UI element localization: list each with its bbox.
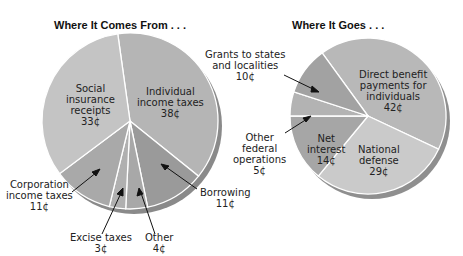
- label-social-insurance: Social insurance receipts 33¢: [66, 83, 115, 127]
- label-value: 33¢: [66, 116, 115, 127]
- label-direct-benefit: Direct benefit payments for individuals …: [359, 69, 427, 113]
- label-value: 4¢: [145, 243, 173, 254]
- label-line: Other: [145, 232, 173, 243]
- label-line: Social: [66, 83, 115, 94]
- label-line: federal: [233, 143, 286, 154]
- label-value: 5¢: [233, 165, 286, 176]
- label-line: Other: [233, 132, 286, 143]
- label-line: operations: [233, 154, 286, 165]
- label-value: 3¢: [70, 243, 132, 254]
- label-borrowing: Borrowing 11¢: [200, 187, 251, 209]
- label-line: defense: [358, 155, 400, 166]
- label-national-defense: National defense 29¢: [358, 144, 400, 177]
- label-line: Excise taxes: [70, 232, 132, 243]
- label-line: National: [358, 144, 400, 155]
- label-line: Direct benefit: [359, 69, 427, 80]
- label-line: receipts: [66, 105, 115, 116]
- label-line: Grants to states: [205, 49, 285, 60]
- label-line: Net: [307, 133, 345, 144]
- label-line: payments for: [359, 80, 427, 91]
- label-value: 42¢: [359, 102, 427, 113]
- label-line: Corporation: [6, 179, 73, 190]
- label-line: income taxes: [137, 97, 204, 108]
- label-corporation: Corporation income taxes 11¢: [6, 179, 73, 212]
- label-net-interest: Net interest 14¢: [307, 133, 345, 166]
- label-individual-income: Individual income taxes 38¢: [137, 86, 204, 119]
- label-line: income taxes: [6, 190, 73, 201]
- pie-charts: [0, 0, 463, 256]
- label-other: Other 4¢: [145, 232, 173, 254]
- label-excise: Excise taxes 3¢: [70, 232, 132, 254]
- label-line: and localities: [205, 60, 285, 71]
- label-line: insurance: [66, 94, 115, 105]
- label-value: 14¢: [307, 155, 345, 166]
- label-value: 11¢: [6, 201, 73, 212]
- label-value: 29¢: [358, 166, 400, 177]
- label-value: 38¢: [137, 108, 204, 119]
- label-line: interest: [307, 144, 345, 155]
- label-value: 10¢: [205, 71, 285, 82]
- label-grants: Grants to states and localities 10¢: [205, 49, 285, 82]
- label-value: 11¢: [200, 198, 251, 209]
- label-line: Borrowing: [200, 187, 251, 198]
- label-line: Individual: [137, 86, 204, 97]
- label-other-federal: Other federal operations 5¢: [233, 132, 286, 176]
- label-line: individuals: [359, 91, 427, 102]
